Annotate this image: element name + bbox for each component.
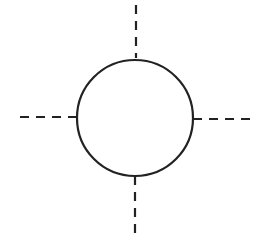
diagram-canvas [0, 0, 267, 248]
center-circle [77, 60, 193, 176]
circle-cross-diagram [0, 0, 267, 248]
